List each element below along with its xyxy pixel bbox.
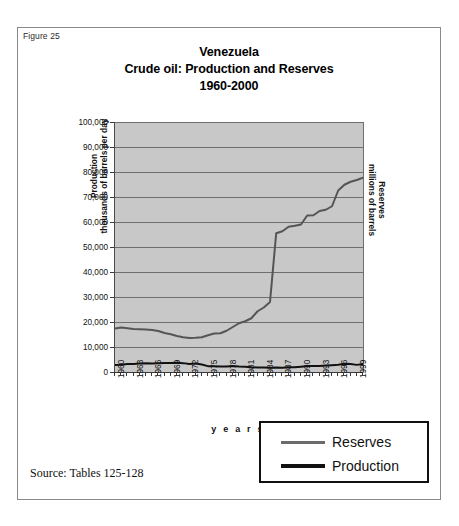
y-axis-tick-mark	[110, 147, 114, 148]
chart-title-line-2: Crude oil: Production and Reserves	[17, 61, 441, 78]
x-axis-tick-mark	[362, 372, 363, 376]
y-axis-right-line	[363, 122, 364, 372]
x-axis-tick-mark	[269, 372, 270, 376]
legend-swatch-reserves	[281, 441, 325, 444]
x-axis-tick-mark	[294, 372, 295, 376]
x-axis-tick-mark	[337, 372, 338, 376]
y-axis-tick-mark	[110, 322, 114, 323]
y-axis-title-right-line-2: millions of barrels	[367, 125, 377, 275]
x-axis-tick-mark	[157, 372, 158, 376]
x-axis-tick-mark	[250, 372, 251, 376]
x-axis-tick-mark	[343, 372, 344, 376]
y-axis-tick-mark	[110, 122, 114, 123]
line-series-reserves	[115, 178, 363, 338]
x-axis-tick-mark	[244, 372, 245, 376]
legend-item-production[interactable]: Production	[281, 455, 399, 477]
chart-legend: Reserves Production	[259, 421, 429, 483]
x-axis-tick-mark	[263, 372, 264, 376]
x-axis-tick-mark	[300, 372, 301, 376]
x-axis-tick-mark	[275, 372, 276, 376]
y-axis-tick-mark	[110, 222, 114, 223]
x-axis-tick-mark	[120, 372, 121, 376]
x-axis-tick-mark	[306, 372, 307, 376]
x-axis-tick-mark	[232, 372, 233, 376]
x-axis-tick-mark	[350, 372, 351, 376]
x-axis-tick-mark	[319, 372, 320, 376]
x-axis-tick-mark	[356, 372, 357, 376]
x-axis-tick-mark	[145, 372, 146, 376]
chart-title: Venezuela Crude oil: Production and Rese…	[17, 44, 441, 95]
x-axis-tick-mark	[114, 372, 115, 376]
x-axis-tick-mark	[188, 372, 189, 376]
x-axis-tick-label: 1987	[285, 360, 293, 378]
y-axis-tick-label: 30,000	[52, 293, 108, 302]
y-axis-tick-label: 60,000	[52, 218, 108, 227]
y-axis-tick-label: 40,000	[52, 268, 108, 277]
x-axis-tick-mark	[257, 372, 258, 376]
legend-item-reserves[interactable]: Reserves	[281, 431, 391, 453]
y-axis-tick-label: 20,000	[52, 318, 108, 327]
x-axis-tick-mark	[133, 372, 134, 376]
legend-label-reserves: Reserves	[332, 435, 391, 449]
plot-area	[114, 122, 363, 372]
x-axis-tick-mark	[182, 372, 183, 376]
source-note: Source: Tables 125-128	[30, 466, 144, 481]
chart-title-line-1: Venezuela	[17, 44, 441, 61]
figure-number-label: Figure 25	[23, 31, 60, 41]
x-axis-tick-label: 1972	[192, 360, 200, 378]
y-axis-tick-mark	[110, 347, 114, 348]
y-axis-tick-label: 50,000	[52, 243, 108, 252]
x-axis-tick-mark	[325, 372, 326, 376]
x-axis-tick-mark	[213, 372, 214, 376]
x-axis-tick-mark	[176, 372, 177, 376]
x-axis-tick-mark	[312, 372, 313, 376]
y-axis-title-right: Reserves millions of barrels	[367, 125, 387, 275]
y-axis-tick-label: 10,000	[52, 343, 108, 352]
y-axis-tick-mark	[110, 247, 114, 248]
legend-label-production: Production	[332, 459, 399, 473]
x-axis-tick-mark	[170, 372, 171, 376]
data-series-layer	[115, 122, 363, 372]
y-axis-tick-label: 80,000	[52, 168, 108, 177]
y-axis-tick-mark	[110, 272, 114, 273]
x-axis-tick-mark	[164, 372, 165, 376]
y-axis-tick-mark	[110, 297, 114, 298]
y-axis-tick-label: 90,000	[52, 143, 108, 152]
y-axis-tick-label: 70,000	[52, 193, 108, 202]
x-axis-tick-mark	[288, 372, 289, 376]
plot-wrapper: 100,00090,00080,00070,00060,00050,00040,…	[114, 122, 362, 372]
x-axis-tick-mark	[238, 372, 239, 376]
figure-page: Figure 25 Venezuela Crude oil: Productio…	[0, 0, 459, 526]
y-axis-tick-label: 0	[52, 368, 108, 377]
y-axis-tick-mark	[110, 197, 114, 198]
x-axis-tick-mark	[219, 372, 220, 376]
y-axis-tick-mark	[110, 172, 114, 173]
x-axis-tick-mark	[281, 372, 282, 376]
x-axis-tick-mark	[139, 372, 140, 376]
y-axis-tick-label: 100,000	[52, 118, 108, 127]
x-axis-tick-mark	[207, 372, 208, 376]
chart-title-line-3: 1960-2000	[17, 78, 441, 95]
x-axis-tick-mark	[331, 372, 332, 376]
x-axis-tick-mark	[195, 372, 196, 376]
x-axis-tick-mark	[201, 372, 202, 376]
legend-swatch-production	[281, 464, 325, 468]
x-axis-tick-mark	[151, 372, 152, 376]
y-axis-title-right-line-1: Reserves	[377, 125, 387, 275]
x-axis-tick-mark	[126, 372, 127, 376]
x-axis-tick-mark	[226, 372, 227, 376]
